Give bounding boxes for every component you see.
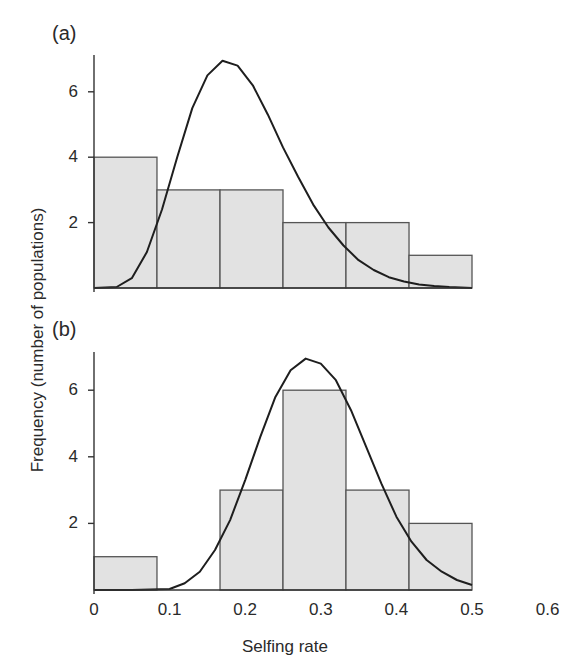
x-tick-label: 0.1 — [150, 600, 190, 620]
histogram-bar — [220, 490, 283, 590]
y-tick-label: 4 — [58, 447, 78, 467]
x-tick-label: 0.2 — [225, 600, 265, 620]
panel-b — [88, 352, 472, 594]
y-tick-label: 2 — [58, 213, 78, 233]
histogram-bar — [94, 557, 157, 590]
x-tick-label: 0.3 — [301, 600, 341, 620]
y-tick-label: 4 — [58, 147, 78, 167]
panel-label-a: (a) — [52, 22, 76, 45]
histogram-bar — [220, 190, 283, 288]
panel-label-b: (b) — [52, 318, 76, 341]
x-tick-label: 0.4 — [376, 600, 416, 620]
panel-a — [88, 55, 472, 292]
y-tick-label: 2 — [58, 513, 78, 533]
histogram-figure — [0, 0, 576, 672]
x-tick-label: 0.5 — [452, 600, 492, 620]
x-tick-label: 0 — [74, 600, 114, 620]
histogram-bar — [283, 223, 346, 288]
histogram-bar — [346, 223, 409, 288]
histogram-bar — [157, 190, 220, 288]
histogram-bar — [409, 255, 472, 288]
histogram-bar — [409, 523, 472, 590]
y-tick-label: 6 — [58, 82, 78, 102]
x-axis-label: Selfing rate — [242, 637, 328, 657]
x-tick-label: 0.6 — [528, 600, 568, 620]
histogram-bar — [283, 390, 346, 590]
y-axis-label: Frequency (number of populations) — [28, 208, 48, 473]
histogram-bar — [94, 157, 157, 288]
histogram-bar — [346, 490, 409, 590]
y-tick-label: 6 — [58, 380, 78, 400]
